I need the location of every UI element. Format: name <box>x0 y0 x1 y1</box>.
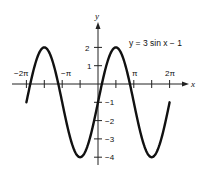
x-axis-arrow-icon <box>182 82 189 87</box>
x-tick-label-neg-pi: −π <box>61 69 72 78</box>
y-axis-label: y <box>94 11 99 21</box>
chart-canvas: x y −2π −π π 2π 2 1 −1 −2 −3 −4 y = 3 si… <box>0 0 205 173</box>
y-tick-label-neg4: −4 <box>105 153 115 162</box>
y-tick-label-neg3: −3 <box>105 135 115 144</box>
x-tick-label-neg-2pi: −2π <box>14 69 29 78</box>
y-tick-label-neg2: −2 <box>105 117 115 126</box>
y-tick-label-1: 1 <box>87 62 92 71</box>
y-tick-label-neg1: −1 <box>105 98 115 107</box>
x-tick-label-2pi: 2π <box>165 69 175 78</box>
y-axis-arrow-icon <box>96 22 101 29</box>
y-tick-label-2: 2 <box>85 44 90 53</box>
equation-label: y = 3 sin x − 1 <box>129 38 182 48</box>
x-axis-label: x <box>190 79 195 89</box>
x-tick-label-pi: π <box>132 69 138 78</box>
